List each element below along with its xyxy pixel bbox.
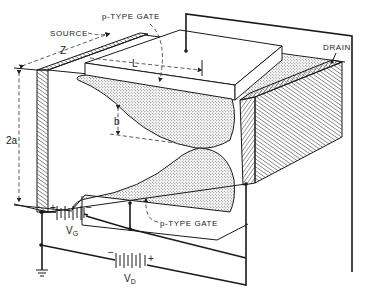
bottom-gate-label: p-TYPE GATE (160, 219, 218, 228)
drain-battery: − + VD (108, 247, 154, 285)
lower-depletion-region (72, 148, 235, 212)
source-label: SOURCE (50, 29, 88, 38)
drain-battery-label: VD (124, 273, 136, 285)
dim-l-label: L (132, 58, 138, 69)
top-gate-label: p-TYPE GATE (102, 12, 160, 21)
jfet-diagram: 2a Z L b SOURCE p-TYPE GATE DRAIN p-TYPE… (0, 0, 367, 296)
ground-icon (36, 270, 48, 276)
dim-b-label: b (114, 116, 120, 127)
drain-label: DRAIN (323, 43, 351, 52)
dim-2a-label: 2a (6, 135, 18, 146)
dimension-2a: 2a (6, 68, 37, 200)
gate-battery-minus: − (86, 202, 92, 213)
drain-bias-wiring (39, 243, 352, 285)
dim-z-label: Z (60, 45, 66, 56)
gate-battery-label: VG (66, 225, 78, 237)
gate-battery: + − VG (50, 202, 92, 237)
drain-battery-plus: + (148, 253, 154, 264)
source-label-group: SOURCE (50, 29, 108, 38)
gate-battery-plus: + (50, 202, 56, 213)
drain-battery-minus: − (108, 247, 114, 258)
